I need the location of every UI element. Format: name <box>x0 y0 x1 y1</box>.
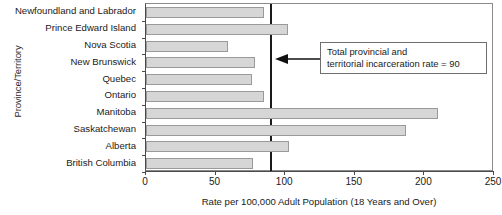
y-axis-label-manitoba: Manitoba <box>97 107 136 117</box>
x-axis-tick <box>354 171 355 175</box>
bar-newfoundland-and-labrador <box>146 7 264 18</box>
y-axis-label-new-brunswick: New Brunswick <box>70 57 136 67</box>
x-axis-tick-label-0: 0 <box>142 176 148 187</box>
y-axis-tick <box>142 54 146 55</box>
annotation-arrow-icon <box>275 51 321 63</box>
y-axis-label-ontario: Ontario <box>105 90 136 100</box>
y-axis-tick <box>142 88 146 89</box>
y-axis-label-nova-scotia: Nova Scotia <box>84 40 136 50</box>
annotation-line-1: Total provincial and <box>327 46 481 58</box>
y-axis-label-quebec: Quebec <box>102 74 136 84</box>
plot-area <box>145 3 493 171</box>
x-axis-tick-label-100: 100 <box>276 176 293 187</box>
y-axis-tick-labels: Newfoundland and LabradorPrince Edward I… <box>0 3 142 171</box>
y-axis-label-newfoundland-and-labrador: Newfoundland and Labrador <box>15 6 136 16</box>
bar-alberta <box>146 141 289 152</box>
y-axis-tick <box>142 21 146 22</box>
y-axis-tick <box>142 122 146 123</box>
x-axis-tick-label-200: 200 <box>415 176 432 187</box>
y-axis-tick <box>142 155 146 156</box>
bar-british-columbia <box>146 158 253 169</box>
x-axis-title: Rate per 100,000 Adult Population (18 Ye… <box>145 196 493 207</box>
y-axis-label-alberta: Alberta <box>106 141 136 151</box>
y-axis-tick <box>142 71 146 72</box>
x-axis-tick <box>145 171 146 175</box>
y-axis-tick <box>142 105 146 106</box>
y-axis-label-saskatchewan: Saskatchewan <box>74 124 136 134</box>
x-axis-tick-label-150: 150 <box>345 176 362 187</box>
chart-figure: Province/Territory Newfoundland and Labr… <box>0 0 502 215</box>
x-axis-tick <box>493 171 494 175</box>
bar-ontario <box>146 91 264 102</box>
bar-quebec <box>146 74 252 85</box>
annotation-line-2: territorial incarceration rate = 90 <box>327 58 481 70</box>
x-axis-tick-label-50: 50 <box>209 176 220 187</box>
y-axis-label-british-columbia: British Columbia <box>66 158 136 168</box>
x-axis-tick <box>215 171 216 175</box>
y-axis-tick <box>142 38 146 39</box>
bar-saskatchewan <box>146 125 406 136</box>
y-axis-label-prince-edward-island: Prince Edward Island <box>45 23 136 33</box>
bar-new-brunswick <box>146 57 255 68</box>
y-axis-tick <box>142 138 146 139</box>
x-axis-tick <box>423 171 424 175</box>
reference-line-annotation: Total provincial and territorial incarce… <box>320 42 487 74</box>
x-axis-tick <box>284 171 285 175</box>
bar-manitoba <box>146 108 438 119</box>
x-axis-line <box>145 171 493 172</box>
x-axis-tick-label-250: 250 <box>485 176 502 187</box>
bar-prince-edward-island <box>146 24 288 35</box>
bar-nova-scotia <box>146 41 228 52</box>
